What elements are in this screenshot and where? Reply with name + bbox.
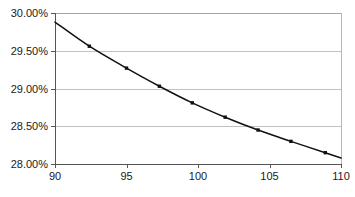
x-axis-tick-label: 100 (189, 170, 207, 182)
x-axis-tick-label: 90 (49, 170, 61, 182)
y-axis-tick-label: 28.00% (11, 158, 49, 170)
y-axis-ticks (51, 14, 55, 165)
line-chart: 28.00%28.50%29.00%29.50%30.00% 909510010… (0, 0, 355, 197)
data-point-marker (125, 66, 128, 69)
data-point-marker (88, 45, 91, 48)
x-axis-labels: 9095100105110 (49, 170, 350, 182)
y-axis-labels: 28.00%28.50%29.00%29.50%30.00% (11, 7, 49, 170)
x-axis-tick-label: 110 (332, 170, 350, 182)
x-axis-tick-label: 95 (120, 170, 132, 182)
y-axis-tick-label: 29.00% (11, 83, 49, 95)
data-point-marker (324, 151, 327, 154)
data-point-marker (223, 115, 226, 118)
y-axis-tick-label: 30.00% (11, 7, 49, 19)
data-point-marker (256, 128, 259, 131)
data-point-marker (158, 85, 161, 88)
data-point-marker (191, 101, 194, 104)
plot-background (55, 13, 341, 164)
x-axis-tick-label: 105 (260, 170, 278, 182)
data-point-marker (289, 140, 292, 143)
y-axis-tick-label: 29.50% (11, 45, 49, 57)
y-axis-tick-label: 28.50% (11, 120, 49, 132)
chart-container: 28.00%28.50%29.00%29.50%30.00% 909510010… (0, 0, 355, 197)
